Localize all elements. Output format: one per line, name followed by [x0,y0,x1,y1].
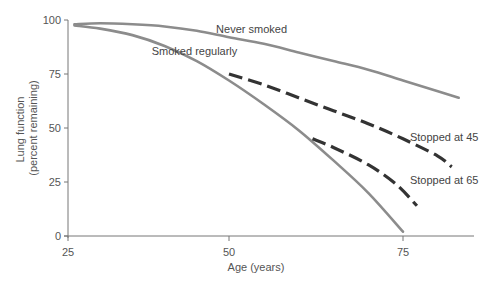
y-ticks: 0255075100 [43,14,68,242]
label-never-smoked: Never smoked [216,23,287,35]
label-stopped-at-45: Stopped at 45 [410,131,479,143]
y-tick-label: 100 [43,14,61,26]
line-smoked-regularly [74,25,403,231]
axes: 0255075100 255075 Age (years) Lung funct… [14,14,474,273]
y-axis-title-line-1: Lung function [14,97,26,163]
x-tick-label: 50 [223,246,235,258]
y-tick-label: 50 [49,122,61,134]
y-axis-title-line-2: (percent remaining) [27,80,39,175]
line-stopped-at-65 [313,139,417,206]
y-tick-label: 0 [55,230,61,242]
x-tick-label: 75 [397,246,409,258]
y-axis-title: Lung function (percent remaining) [14,80,39,175]
x-axis-title: Age (years) [228,261,285,273]
y-tick-label: 75 [49,68,61,80]
line-stopped-at-45 [229,74,452,167]
y-tick-label: 25 [49,176,61,188]
series-lines [74,23,458,231]
lung-function-chart: 0255075100 255075 Age (years) Lung funct… [0,0,487,283]
label-stopped-at-65: Stopped at 65 [410,174,479,186]
x-tick-label: 25 [62,246,74,258]
x-ticks: 255075 [62,236,409,258]
label-smoked-regularly: Smoked regularly [152,45,238,57]
